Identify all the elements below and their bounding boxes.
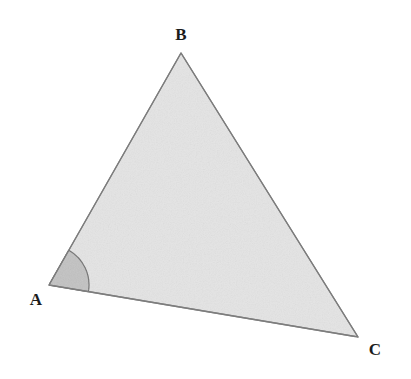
vertex-label-b: B: [175, 25, 187, 44]
vertex-label-c: C: [369, 340, 381, 359]
vertex-label-a: A: [30, 290, 43, 309]
triangle-shape: [49, 53, 358, 337]
geometry-figure-canvas: A B C: [0, 0, 411, 379]
triangle-diagram-svg: A B C: [0, 0, 411, 379]
